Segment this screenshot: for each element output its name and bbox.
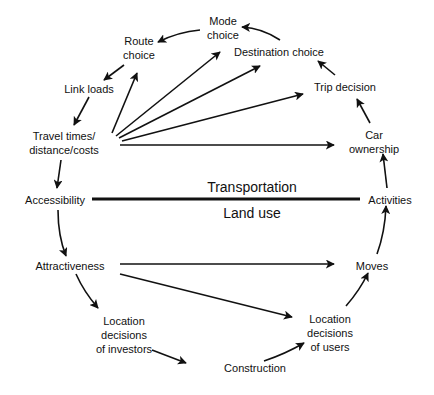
transportation-label: Transportation [207,179,297,195]
edge-moves-to-activities [377,206,386,254]
node-link-loads: Link loads [64,83,114,95]
node-mode-choice: Mode choice [207,15,239,41]
node-label: Accessibility [25,194,85,206]
node-activities: Activities [368,194,412,206]
node-label: Travel times/ [33,130,96,142]
node-label: Attractiveness [35,260,105,272]
node-label: Activities [368,194,412,206]
node-label: Location [309,313,351,325]
node-label: ownership [349,143,399,155]
edge-attractiveness-to-investors [76,274,98,308]
node-label: choice [207,29,239,41]
edge-trip-to-destination [318,61,335,75]
node-car-ownership: Car ownership [349,129,399,155]
node-label: Car [365,129,383,141]
node-route-choice: Route choice [123,35,155,61]
node-trip-decision: Trip decision [314,81,376,93]
node-attractiveness: Attractiveness [35,260,105,272]
edge-activities-to-car [383,154,387,188]
edge-traveltimes-to-route [112,73,137,133]
edge-route-to-linkloads [104,65,124,80]
node-label: Destination choice [234,46,324,58]
node-label: Trip decision [314,81,376,93]
node-label: decisions [101,329,147,341]
edge-traveltimes-to-trip [122,94,303,141]
edge-investors-to-construction [152,350,186,363]
edge-accessibility-to-attractiveness [58,210,66,256]
edge-traveltimes-to-accessibility [57,160,61,188]
edge-users-to-moves [346,273,368,306]
edge-destination-to-mode [242,27,280,40]
node-location-decisions-users: Location decisions of users [307,313,353,353]
node-label: Link loads [64,83,114,95]
feedback-cycle-diagram: Transportation Land use Mode choice Rout… [0,0,434,395]
node-destination-choice: Destination choice [234,46,324,58]
node-label: choice [123,49,155,61]
edge-linkloads-to-traveltimes [74,97,89,125]
edge-mode-to-route [158,30,200,42]
edge-car-to-trip [357,99,370,123]
node-label: of investors [96,343,153,355]
node-label: Route [124,35,153,47]
node-accessibility: Accessibility [25,194,85,206]
node-label: of users [310,341,350,353]
node-moves: Moves [356,260,389,272]
node-label: Moves [356,260,389,272]
node-location-decisions-investors: Location decisions of investors [96,315,153,355]
node-label: Mode [209,15,237,27]
node-label: decisions [307,327,353,339]
edge-construction-to-users [264,343,304,361]
node-construction: Construction [224,362,286,374]
node-label: Location [103,315,145,327]
land-use-label: Land use [223,205,281,221]
edge-attractiveness-to-users [120,274,292,317]
node-travel-times: Travel times/ distance/costs [29,130,99,156]
node-label: Construction [224,362,286,374]
node-label: distance/costs [29,144,99,156]
